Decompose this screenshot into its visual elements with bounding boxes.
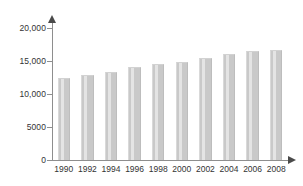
- x-axis-tick-label: 2006: [241, 164, 265, 174]
- x-axis-tick-label: 1998: [146, 164, 170, 174]
- bar: [246, 51, 258, 160]
- x-axis-tick-label: 1996: [123, 164, 147, 174]
- bar-highlight: [61, 79, 64, 161]
- bar: [270, 50, 282, 160]
- bar: [128, 67, 140, 160]
- x-axis-tick-label: 1990: [52, 164, 76, 174]
- bar: [199, 58, 211, 160]
- x-axis-tick-label: 2004: [217, 164, 241, 174]
- bar: [223, 54, 235, 160]
- bar-highlight: [226, 55, 229, 160]
- bar-series: [0, 0, 303, 186]
- bar-highlight: [202, 59, 205, 160]
- bar-highlight: [249, 52, 252, 160]
- x-axis-tick-label: 2008: [264, 164, 288, 174]
- bar-highlight: [155, 65, 158, 160]
- x-axis-tick-label: 1994: [99, 164, 123, 174]
- bar: [152, 64, 164, 160]
- x-axis-tick-label: 1992: [76, 164, 100, 174]
- bar: [105, 72, 117, 160]
- bar-highlight: [84, 76, 87, 160]
- bar: [81, 75, 93, 160]
- bar: [58, 78, 70, 161]
- bar-highlight: [131, 68, 134, 160]
- x-axis-tick-label: 2000: [170, 164, 194, 174]
- x-axis-tick-label: 2002: [194, 164, 218, 174]
- bar-chart: 0500010,00015,00020,000 1990199219941996…: [0, 0, 303, 186]
- bar-highlight: [273, 51, 276, 160]
- bar-highlight: [108, 73, 111, 160]
- bar-highlight: [179, 63, 182, 160]
- bar: [176, 62, 188, 160]
